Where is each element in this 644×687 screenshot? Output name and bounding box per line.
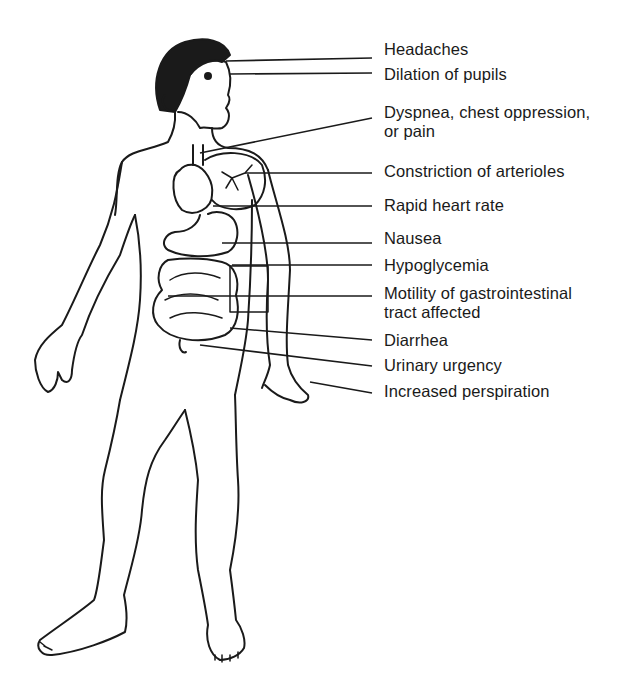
left-leg <box>38 400 185 655</box>
label-dyspnea-line1: Dyspnea, chest oppression, <box>384 103 590 122</box>
label-dyspnea-line2: or pain <box>384 122 590 141</box>
lung-right <box>205 153 265 209</box>
label-diarrhea: Diarrhea <box>384 331 448 350</box>
eye <box>205 73 211 79</box>
label-dyspnea: Dyspnea, chest oppression, or pain <box>384 103 590 141</box>
trachea <box>193 145 203 165</box>
arteriole-branches <box>222 165 252 190</box>
label-rapid-heart-rate: Rapid heart rate <box>384 196 504 215</box>
label-increased-perspiration: Increased perspiration <box>384 382 549 401</box>
callout-line-diarrhea <box>230 328 372 340</box>
label-hypoglycemia: Hypoglycemia <box>384 256 489 275</box>
neck <box>115 112 175 215</box>
left-toes <box>40 642 52 650</box>
label-constriction-of-arterioles: Constriction of arterioles <box>384 162 565 181</box>
callout-line-pupils <box>230 73 372 74</box>
label-urinary-urgency: Urinary urgency <box>384 356 502 375</box>
callout-line-perspiration <box>310 382 372 393</box>
heart <box>173 165 212 213</box>
label-headaches: Headaches <box>384 40 468 59</box>
label-nausea: Nausea <box>384 229 441 248</box>
callout-line-headaches <box>226 58 372 61</box>
callout-line-dyspnea <box>200 118 372 153</box>
right-arm-outer <box>265 170 308 402</box>
callout-lines <box>168 58 372 393</box>
hair <box>156 39 230 112</box>
right-leg <box>185 395 245 660</box>
stomach <box>164 212 237 256</box>
bladder <box>179 340 186 352</box>
label-dilation-of-pupils: Dilation of pupils <box>384 65 507 84</box>
label-gi-motility: Motility of gastrointestinal tract affec… <box>384 284 572 322</box>
label-gi-motility-line1: Motility of gastrointestinal <box>384 284 572 303</box>
left-arm <box>35 162 135 392</box>
label-gi-motility-line2: tract affected <box>384 303 572 322</box>
